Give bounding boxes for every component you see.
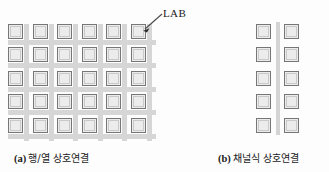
- figure-root: LAB (a)행/열 상호연결 (b)채널식 상호연결: [0, 0, 329, 172]
- lab-block: [284, 118, 299, 133]
- lab-block: [106, 47, 121, 62]
- caption-a-tag: (a): [14, 153, 26, 164]
- lab-block: [284, 24, 299, 39]
- caption-b-text: 채널식 상호연결: [233, 153, 299, 164]
- lab-grid-channel: [180, 0, 329, 172]
- row-interconnect-band: [8, 40, 156, 45]
- lab-block: [8, 71, 23, 86]
- lab-block: [33, 47, 48, 62]
- lab-block: [57, 94, 72, 109]
- lab-block: [82, 24, 97, 39]
- lab-block: [57, 71, 72, 86]
- lab-block: [106, 94, 121, 109]
- lab-block: [106, 71, 121, 86]
- lab-block: [131, 24, 146, 39]
- panel-channel-interconnect: [180, 0, 329, 172]
- lab-block: [256, 94, 271, 109]
- lab-block: [256, 118, 271, 133]
- lab-block: [131, 118, 146, 133]
- caption-panel-b: (b)채널식 상호연결: [218, 150, 299, 165]
- row-interconnect-band: [8, 134, 156, 139]
- lab-block: [8, 94, 23, 109]
- routing-channel-line: [276, 22, 280, 135]
- lab-block: [33, 94, 48, 109]
- lab-block: [106, 24, 121, 39]
- lab-block: [33, 24, 48, 39]
- caption-a-text: 행/열 상호연결: [28, 153, 89, 164]
- column-interconnect-band: [122, 24, 127, 141]
- column-interconnect-band: [98, 24, 103, 141]
- lab-callout-label: LAB: [163, 7, 186, 19]
- lab-block: [33, 118, 48, 133]
- caption-panel-a: (a)행/열 상호연결: [14, 150, 89, 165]
- row-interconnect-band: [8, 63, 156, 68]
- lab-block: [284, 47, 299, 62]
- lab-block: [33, 71, 48, 86]
- lab-block: [82, 94, 97, 109]
- lab-block: [256, 24, 271, 39]
- lab-block: [284, 94, 299, 109]
- lab-block: [57, 47, 72, 62]
- lab-block: [131, 71, 146, 86]
- panel-row-column-interconnect: [0, 0, 180, 172]
- lab-block: [256, 71, 271, 86]
- lab-block: [82, 71, 97, 86]
- lab-block: [8, 47, 23, 62]
- column-interconnect-band: [49, 24, 54, 141]
- lab-block: [57, 24, 72, 39]
- column-interconnect-band: [24, 24, 29, 141]
- column-interconnect-band: [73, 24, 78, 141]
- lab-block: [131, 94, 146, 109]
- lab-block: [57, 118, 72, 133]
- lab-block: [82, 47, 97, 62]
- row-interconnect-band: [8, 110, 156, 115]
- lab-block: [284, 71, 299, 86]
- lab-block: [131, 47, 146, 62]
- lab-block: [8, 24, 23, 39]
- column-interconnect-band: [147, 24, 152, 141]
- row-interconnect-band: [8, 87, 156, 92]
- lab-block: [82, 118, 97, 133]
- lab-block: [106, 118, 121, 133]
- lab-block: [256, 47, 271, 62]
- caption-b-tag: (b): [218, 153, 231, 164]
- lab-grid-row-column: [8, 24, 156, 141]
- lab-block: [8, 118, 23, 133]
